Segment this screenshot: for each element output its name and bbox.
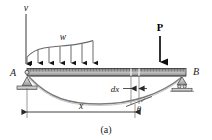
roller-wheel — [178, 85, 181, 88]
elastic-curve — [29, 77, 182, 104]
figure-caption: (a) — [100, 124, 111, 136]
deflection-axis-group: v — [24, 2, 29, 64]
dx-label: dx — [111, 84, 120, 94]
roller-support-base — [172, 88, 192, 91]
slope-angle-label: θ — [137, 104, 142, 114]
support-right-label: B — [193, 66, 199, 77]
deflection-axis-label: v — [24, 2, 29, 13]
beam-deflection-figure: v w P — [0, 0, 212, 140]
distributed-load-group: w — [27, 32, 93, 63]
x-dimension-label: x — [78, 101, 84, 111]
pin-support-pin — [25, 70, 29, 74]
support-left-label: A — [9, 67, 17, 78]
point-load-label: P — [157, 22, 164, 33]
elastic-curve-group — [29, 77, 182, 105]
figure-canvas: v w P — [0, 0, 212, 140]
roller-wheel — [183, 85, 186, 88]
distributed-load-label: w — [60, 32, 67, 42]
point-load-group: P — [157, 22, 164, 62]
beam-group — [27, 69, 186, 77]
